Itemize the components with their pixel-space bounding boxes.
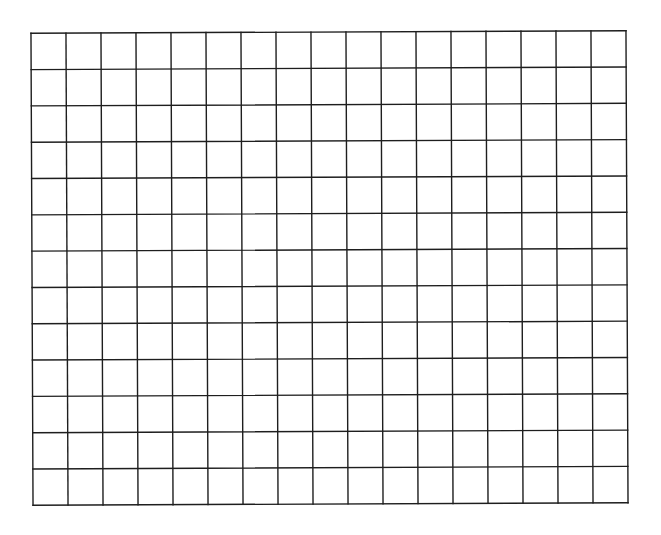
- grid-vertical-line: [66, 33, 68, 505]
- grid-horizontal-line: [32, 176, 627, 179]
- grid-vertical-line: [206, 33, 208, 505]
- grid-horizontal-line: [33, 503, 628, 506]
- grid-horizontal-line: [32, 321, 627, 324]
- grid-horizontal-line: [31, 103, 626, 106]
- grid-vertical-line: [276, 32, 278, 504]
- grid-vertical-line: [381, 32, 383, 504]
- grid-vertical-line: [31, 33, 33, 505]
- grid-vertical-line: [416, 32, 418, 504]
- grid-vertical-line: [346, 32, 348, 504]
- grid-horizontal-line: [31, 31, 626, 34]
- grid-horizontal-line: [32, 249, 627, 252]
- grid-vertical-line: [591, 31, 593, 503]
- grid-vertical-line: [451, 31, 453, 503]
- grid-horizontal-line: [31, 67, 626, 70]
- grid-vertical-line: [486, 31, 488, 503]
- grid-vertical-line: [101, 33, 103, 505]
- blank-grid: [31, 31, 628, 506]
- grid-horizontal-line: [32, 212, 627, 215]
- grid-horizontal-line: [33, 466, 628, 469]
- grid-vertical-line: [171, 33, 173, 505]
- grid-lines: [31, 31, 628, 506]
- grid-horizontal-line: [32, 357, 627, 360]
- grid-horizontal-line: [32, 285, 627, 288]
- grid-horizontal-line: [33, 394, 628, 397]
- grid-vertical-line: [136, 33, 138, 505]
- grid-vertical-line: [311, 32, 313, 504]
- grid-horizontal-line: [31, 140, 626, 143]
- grid-vertical-line: [556, 31, 558, 503]
- grid-horizontal-line: [33, 430, 628, 433]
- grid-vertical-line: [626, 31, 628, 503]
- grid-vertical-line: [521, 31, 523, 503]
- grid-vertical-line: [241, 32, 243, 504]
